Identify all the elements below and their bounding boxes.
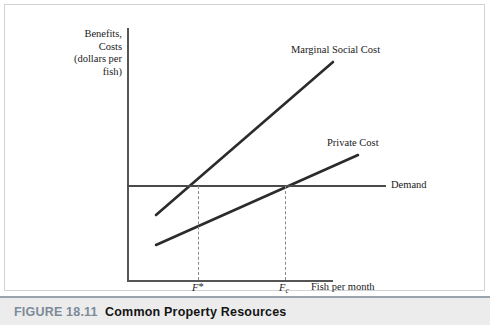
x-tick-f-c-subscript: c bbox=[285, 286, 288, 295]
x-axis-label: Fish per month bbox=[311, 281, 375, 292]
drop-line-fstar bbox=[198, 186, 199, 280]
x-tick-f-star-superscript: * bbox=[198, 281, 203, 292]
figure-caption-spacer bbox=[98, 305, 105, 319]
figure-title: Common Property Resources bbox=[105, 305, 286, 319]
private-cost-label: Private Cost bbox=[327, 137, 379, 148]
figure-caption-bar: FIGURE 18.11 Common Property Resources bbox=[0, 296, 490, 325]
cost-curves bbox=[0, 0, 490, 292]
demand-line bbox=[127, 185, 386, 187]
chart-plot-area: Benefits, Costs (dollars per fish) Margi… bbox=[0, 0, 490, 292]
marginal-social-cost-line bbox=[156, 62, 333, 215]
figure-caption: FIGURE 18.11 Common Property Resources bbox=[0, 305, 286, 319]
x-tick-label-f-star: F* bbox=[192, 282, 204, 293]
figure-number: FIGURE 18.11 bbox=[14, 305, 98, 319]
private-cost-line bbox=[156, 155, 358, 245]
x-tick-label-f-c: Fc bbox=[279, 282, 289, 293]
marginal-social-cost-label: Marginal Social Cost bbox=[291, 44, 380, 55]
demand-label: Demand bbox=[391, 179, 427, 190]
drop-line-fc bbox=[285, 186, 286, 280]
figure-page: Benefits, Costs (dollars per fish) Margi… bbox=[0, 0, 490, 325]
